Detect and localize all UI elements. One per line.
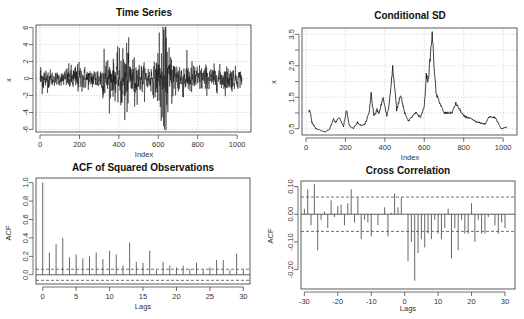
conditional-sd-line — [308, 32, 507, 133]
x-axis-label: Index — [401, 153, 420, 162]
svg-text:0: 0 — [304, 143, 308, 152]
x-axis-label: Lags — [135, 302, 152, 311]
time-series-title: Time Series — [116, 7, 172, 18]
time-series-panel: Time Series 02004006008001000-6-4-20246 … — [4, 7, 251, 159]
svg-text:-20: -20 — [332, 297, 343, 306]
svg-text:3.5: 3.5 — [288, 29, 297, 39]
x-axis-label: Index — [135, 150, 154, 159]
svg-text:0.8: 0.8 — [22, 196, 31, 206]
svg-text:1.5: 1.5 — [288, 92, 297, 102]
axes: 020040060080010000.51.52.53.5 — [288, 29, 512, 152]
svg-text:1000: 1000 — [229, 140, 246, 149]
ccf-bars — [301, 184, 515, 281]
svg-text:10: 10 — [105, 292, 113, 301]
svg-text:30: 30 — [239, 292, 247, 301]
svg-text:600: 600 — [418, 143, 431, 152]
conditional-sd-title: Conditional SD — [374, 10, 446, 21]
cross-correlation-panel: Cross Correlation -30-20-1001020300.100.… — [266, 165, 515, 313]
svg-text:800: 800 — [457, 143, 470, 152]
svg-text:20: 20 — [467, 297, 475, 306]
svg-text:800: 800 — [191, 140, 204, 149]
svg-text:0: 0 — [38, 140, 42, 149]
y-axis-label: x — [269, 80, 278, 84]
svg-text:-0.20: -0.20 — [287, 261, 296, 278]
svg-text:20: 20 — [172, 292, 180, 301]
svg-text:400: 400 — [113, 140, 126, 149]
chart-figure: Time Series 02004006008001000-6-4-20246 … — [0, 0, 524, 319]
svg-text:0: 0 — [22, 76, 31, 80]
axes: -30-20-1001020300.100.00-0.10-0.20 — [287, 179, 510, 306]
axes: 02004006008001000-6-4-20246 — [21, 25, 245, 149]
time-series-line — [40, 27, 242, 131]
svg-text:0.2: 0.2 — [22, 251, 31, 261]
svg-text:-2: -2 — [22, 92, 31, 99]
svg-text:1.0: 1.0 — [22, 177, 31, 187]
acf-bars — [36, 183, 250, 281]
svg-text:200: 200 — [339, 143, 352, 152]
svg-text:0.6: 0.6 — [22, 214, 31, 224]
svg-text:0.5: 0.5 — [288, 123, 297, 133]
svg-text:10: 10 — [434, 297, 442, 306]
svg-text:-0.10: -0.10 — [287, 233, 296, 250]
svg-text:0.4: 0.4 — [22, 233, 31, 243]
conditional-sd-panel: Conditional SD 020040060080010000.51.52.… — [269, 10, 517, 162]
svg-text:6: 6 — [22, 25, 31, 29]
svg-text:600: 600 — [152, 140, 165, 149]
svg-text:400: 400 — [379, 143, 392, 152]
svg-text:-4: -4 — [22, 109, 31, 116]
svg-text:5: 5 — [74, 292, 78, 301]
svg-text:0.10: 0.10 — [287, 179, 296, 194]
y-axis-label: ACF — [4, 225, 13, 240]
svg-text:-6: -6 — [22, 126, 31, 133]
acf-title: ACF of Squared Observations — [72, 162, 215, 173]
acf-panel: ACF of Squared Observations 051015202530… — [4, 162, 250, 311]
svg-text:30: 30 — [501, 297, 509, 306]
cross-correlation-title: Cross Correlation — [366, 165, 450, 176]
svg-text:200: 200 — [73, 140, 86, 149]
svg-text:0.0: 0.0 — [22, 270, 31, 280]
svg-text:2.5: 2.5 — [288, 61, 297, 71]
svg-text:0: 0 — [41, 292, 45, 301]
x-axis-label: Lags — [400, 304, 417, 313]
svg-text:2: 2 — [21, 59, 30, 63]
svg-text:-10: -10 — [366, 297, 377, 306]
axes: 0510152025300.00.20.40.60.81.0 — [22, 177, 248, 301]
svg-text:-30: -30 — [299, 297, 310, 306]
y-axis-label: ACF — [266, 228, 275, 243]
svg-text:25: 25 — [206, 292, 214, 301]
y-axis-label: x — [4, 78, 13, 82]
svg-text:1000: 1000 — [495, 143, 512, 152]
svg-text:15: 15 — [139, 292, 147, 301]
svg-text:0.00: 0.00 — [287, 207, 296, 222]
svg-text:4: 4 — [22, 42, 31, 46]
